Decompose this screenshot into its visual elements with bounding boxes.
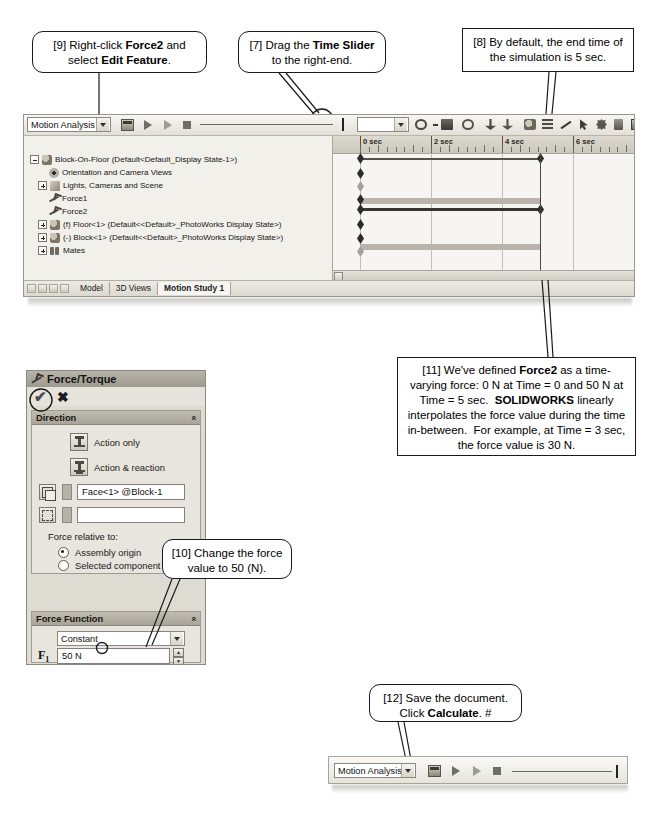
callout-12-target-circle (0, 0, 657, 818)
bottom-play-from-start-button[interactable] (448, 763, 463, 778)
bottom-time-slider-track[interactable] (512, 771, 612, 772)
bottom-calculate-button[interactable] (427, 763, 442, 778)
bottom-toolbar-shadow (332, 785, 628, 793)
bottom-time-slider-handle[interactable] (616, 765, 618, 778)
chevron-down-icon-4[interactable] (401, 764, 414, 777)
bottom-study-type-dropdown[interactable]: Motion Analysis (334, 763, 416, 778)
bottom-motion-toolbar: Motion Analysis (328, 756, 628, 784)
bottom-stop-button[interactable] (489, 763, 504, 778)
bottom-study-type-value: Motion Analysis (338, 766, 402, 776)
stop-icon (493, 767, 501, 775)
play-from-start-icon (452, 766, 460, 776)
page-root: [9] Right-click Force2 and select Edit F… (0, 0, 657, 818)
bottom-play-button[interactable] (469, 763, 484, 778)
play-icon (473, 766, 481, 776)
calculate-icon (428, 765, 441, 777)
